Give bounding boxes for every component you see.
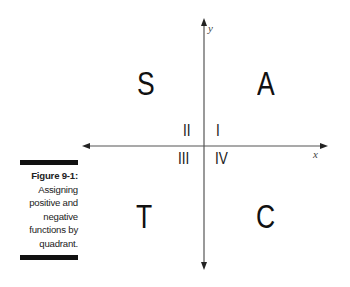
y-axis-top-arrow-icon (201, 18, 207, 26)
quadrant-numeral-iv: IV (215, 150, 228, 167)
y-axis-bottom-arrow-icon (201, 262, 207, 270)
quadrant-letter-t: T (136, 199, 152, 233)
quadrant-numeral-ii: II (183, 122, 191, 139)
quadrant-letter-c: C (256, 199, 275, 233)
y-axis-label: y (208, 22, 213, 34)
quadrant-letter-a: A (257, 66, 275, 100)
quadrant-numeral-iii: III (178, 150, 189, 167)
quadrant-letter-s: S (137, 66, 155, 100)
x-axis-right-arrow-icon (320, 143, 328, 149)
x-axis-left-arrow-icon (82, 143, 90, 149)
coordinate-axes (0, 0, 350, 287)
x-axis-label: x (313, 148, 318, 160)
quadrant-numeral-i: I (216, 122, 220, 139)
